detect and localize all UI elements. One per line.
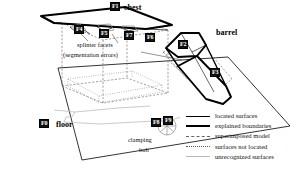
legend-label-superimposed-model: superimposed model <box>212 132 270 140</box>
legend-swatch-thin-solid-icon <box>186 116 212 117</box>
figure-3d-scene-interpretation: chest barrel floor splinter facets (segm… <box>0 0 296 177</box>
legend-label-explained-boundaries: explained boundaries <box>212 122 271 130</box>
legend-swatch-dashed-icon <box>186 136 212 137</box>
legend-row-located-surfaces: located surfaces <box>186 111 296 121</box>
legend-row-explained-boundaries: explained boundaries <box>186 121 296 131</box>
surface-tag-f1: F1 <box>110 2 120 11</box>
chest-surfaces-not-located <box>68 71 162 103</box>
legend-row-superimposed-model: superimposed model <box>186 131 296 141</box>
annotation-bolt: bolt <box>139 146 149 154</box>
surface-tag-f0: F0 <box>39 119 49 128</box>
annotation-clamping: clamping <box>128 136 152 144</box>
legend-row-unrecognized-surfaces: unrecognized surfaces <box>186 152 296 162</box>
surface-tag-f2: F2 <box>178 40 188 49</box>
object-label-barrel: barrel <box>216 28 237 37</box>
legend-label-surfaces-not-located: surfaces not located <box>212 143 267 151</box>
legend-swatch-dotted-icon <box>186 146 212 147</box>
surface-tag-f6: F6 <box>145 33 155 42</box>
legend-swatch-light-solid-icon <box>186 156 212 157</box>
object-label-floor: floor <box>56 120 72 129</box>
surface-tag-f4: F4 <box>74 25 84 34</box>
legend: located surfaces explained boundaries su… <box>186 111 296 162</box>
surface-tag-f3: F3 <box>210 68 220 77</box>
surface-tag-f5: F5 <box>99 29 109 38</box>
legend-row-surfaces-not-located: surfaces not located <box>186 142 296 152</box>
surface-tag-f9: F9 <box>163 116 173 125</box>
object-label-chest: chest <box>124 3 141 12</box>
surface-tag-f8: F8 <box>151 118 161 127</box>
legend-label-unrecognized-surfaces: unrecognized surfaces <box>212 153 274 161</box>
surface-tag-f7: F7 <box>124 31 134 40</box>
annotation-segmentation-errors: (segmentation errors) <box>63 51 118 59</box>
barrel-explained-boundary <box>166 33 231 104</box>
legend-swatch-thick-solid-icon <box>186 125 212 127</box>
annotation-splinter-facets: splinter facets <box>77 41 113 49</box>
chest-lid-explained-boundary <box>41 7 172 29</box>
legend-label-located-surfaces: located surfaces <box>212 112 257 120</box>
